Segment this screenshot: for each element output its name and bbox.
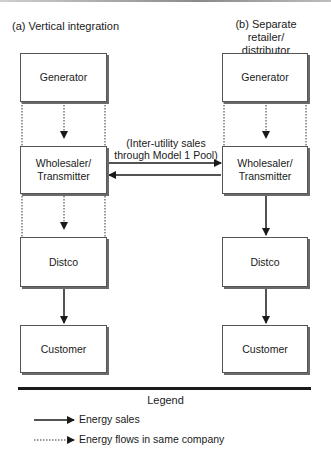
panel-a-wholesaler-to-distco-dotted xyxy=(22,193,105,237)
inter-utility-note-line1: (Inter-utility sales xyxy=(110,137,222,149)
box-label-line2: Transmitter xyxy=(239,170,292,183)
box-label: Generator xyxy=(241,71,288,84)
box-label: Customer xyxy=(242,343,288,356)
box-label: Distco xyxy=(49,256,78,269)
panel-a-gen-to-wholesaler-dotted xyxy=(22,102,105,146)
legend-label-energy-sales: Energy sales xyxy=(79,413,140,425)
box-label: Distco xyxy=(250,256,279,269)
box-label-line2: Transmitter xyxy=(37,170,90,183)
panel-b-generator-box: Generator xyxy=(222,53,308,102)
legend-label-energy-flows: Energy flows in same company xyxy=(79,433,224,445)
box-label-line1: Wholesaler/ xyxy=(237,157,292,170)
box-label-line1: Wholesaler/ xyxy=(36,157,91,170)
panel-b-gen-to-wholesaler-dotted xyxy=(224,102,306,146)
panel-b-distco-box: Distco xyxy=(222,237,308,287)
inter-utility-note: (Inter-utility sales through Model 1 Poo… xyxy=(110,137,222,161)
panel-b-wholesaler-box: Wholesaler/ Transmitter xyxy=(222,146,308,194)
panel-b-customer-box: Customer xyxy=(222,325,308,373)
box-label: Generator xyxy=(40,71,87,84)
panel-a-customer-box: Customer xyxy=(20,325,107,373)
panel-a-generator-box: Generator xyxy=(20,53,107,102)
box-label: Customer xyxy=(41,343,87,356)
legend-title: Legend xyxy=(0,394,331,406)
inter-utility-note-line2: through Model 1 Pool) xyxy=(110,149,222,161)
legend-divider xyxy=(18,387,311,390)
panel-a-wholesaler-box: Wholesaler/ Transmitter xyxy=(20,146,107,194)
panel-a-distco-box: Distco xyxy=(20,237,107,287)
